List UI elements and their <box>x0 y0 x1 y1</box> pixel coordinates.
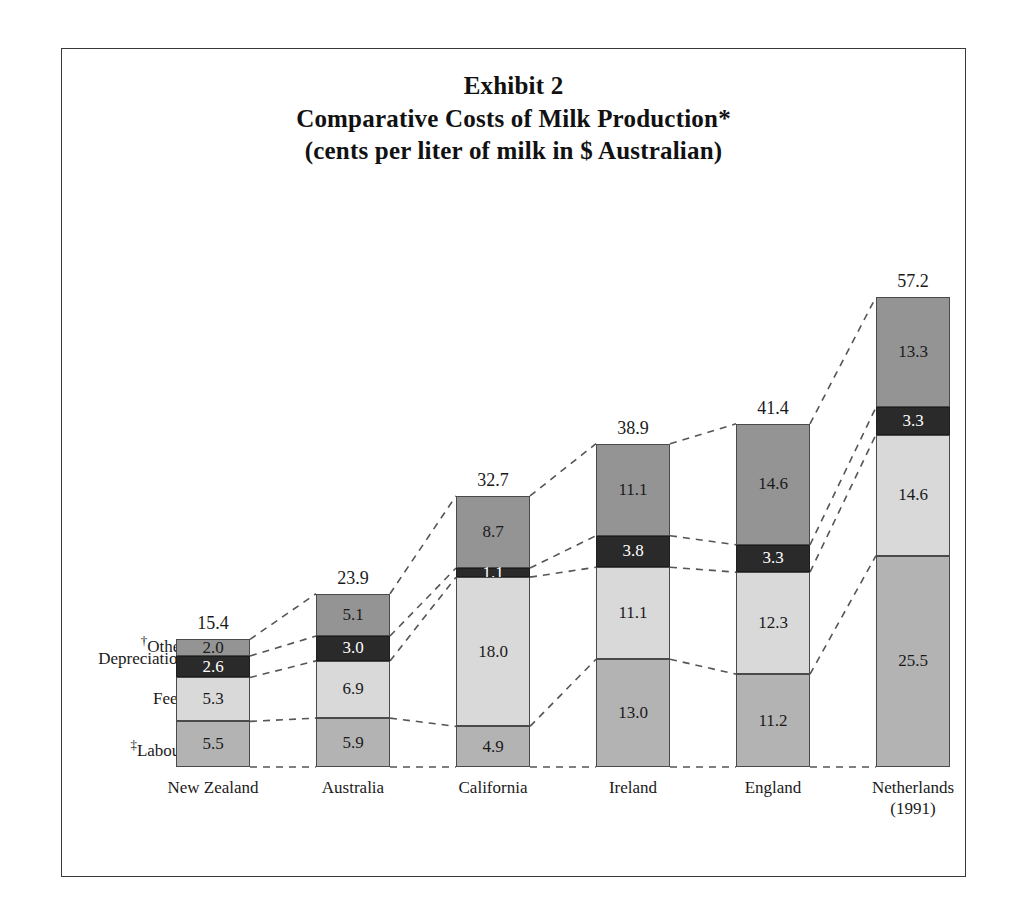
bar-total-label: 32.7 <box>456 470 530 491</box>
x-axis-label-netherlands: Netherlands(1991) <box>848 777 978 820</box>
x-axis-sublabel-text: (1991) <box>848 798 978 819</box>
chart-plot-area: †OtherDepreciationFeed‡Labour2.02.65.35.… <box>0 0 1016 918</box>
bar-segment-value: 11.1 <box>618 603 647 623</box>
bar-segment-value: 5.9 <box>342 733 363 753</box>
bar-segment-depreciation[interactable]: 2.6 <box>176 656 250 678</box>
bar-segment-value: 25.5 <box>898 651 928 671</box>
bar-segment-value: 3.3 <box>902 411 923 431</box>
x-axis-label-ireland: Ireland <box>568 777 698 798</box>
x-axis-label-text: Netherlands <box>848 777 978 798</box>
bar-segment-value: 5.5 <box>202 734 223 754</box>
bar-segment-labour[interactable]: 5.9 <box>316 718 390 767</box>
bar-segment-feed[interactable]: 14.6 <box>876 435 950 556</box>
bar-total-label: 38.9 <box>596 418 670 439</box>
bar-segment-value: 13.0 <box>618 703 648 723</box>
x-axis-label-text: Ireland <box>568 777 698 798</box>
x-axis-label-text: England <box>708 777 838 798</box>
x-axis-label-text: Australia <box>288 777 418 798</box>
x-axis-label-california: California <box>428 777 558 798</box>
bar-segment-value: 14.6 <box>898 485 928 505</box>
bar-total-label: 23.9 <box>316 568 390 589</box>
bar-segment-value: 6.9 <box>342 679 363 699</box>
bar-segment-value: 11.2 <box>758 711 787 731</box>
bar-segment-other[interactable]: 2.0 <box>176 639 250 656</box>
bar-segment-feed[interactable]: 6.9 <box>316 661 390 718</box>
bar-segment-feed[interactable]: 18.0 <box>456 577 530 726</box>
bar-segment-value: 12.3 <box>758 613 788 633</box>
bar-segment-other[interactable]: 14.6 <box>736 424 810 545</box>
bar-segment-value: 5.3 <box>202 689 223 709</box>
x-axis-label-new-zealand: New Zealand <box>148 777 278 798</box>
bar-segment-feed[interactable]: 12.3 <box>736 572 810 674</box>
x-axis-label-australia: Australia <box>288 777 418 798</box>
bar-segment-other[interactable]: 11.1 <box>596 444 670 536</box>
bar-ireland[interactable]: 11.13.811.113.0 <box>596 444 670 767</box>
bar-segment-labour[interactable]: 11.2 <box>736 674 810 767</box>
bar-total-label: 57.2 <box>876 271 950 292</box>
legend-row-label-depreciation: Depreciation <box>98 649 186 669</box>
bar-segment-other[interactable]: 13.3 <box>876 297 950 407</box>
bar-segment-value: 18.0 <box>478 642 508 662</box>
bar-segment-labour[interactable]: 25.5 <box>876 556 950 767</box>
bar-segment-feed[interactable]: 11.1 <box>596 567 670 659</box>
bar-segment-value: 4.9 <box>482 737 503 757</box>
bar-california[interactable]: 8.71.118.04.9 <box>456 496 530 767</box>
bar-segment-labour[interactable]: 4.9 <box>456 726 530 767</box>
bar-segment-depreciation[interactable]: 3.3 <box>876 407 950 434</box>
bar-segment-value: 3.0 <box>342 638 363 658</box>
bar-segment-value: 3.3 <box>762 548 783 568</box>
bar-england[interactable]: 14.63.312.311.2 <box>736 424 810 767</box>
bar-segment-depreciation[interactable]: 3.0 <box>316 636 390 661</box>
bar-segment-feed[interactable]: 5.3 <box>176 677 250 721</box>
bar-segment-other[interactable]: 5.1 <box>316 594 390 636</box>
bar-segment-value: 2.0 <box>202 638 223 658</box>
bar-australia[interactable]: 5.13.06.95.9 <box>316 594 390 767</box>
bar-segment-other[interactable]: 8.7 <box>456 496 530 568</box>
bar-new-zealand[interactable]: 2.02.65.35.5 <box>176 639 250 767</box>
legend-row-label-text: Depreciation <box>98 649 186 668</box>
bar-segment-value: 14.6 <box>758 474 788 494</box>
bar-segment-value: 5.1 <box>342 605 363 625</box>
bar-segment-value: 2.6 <box>202 657 223 677</box>
bar-segment-labour[interactable]: 5.5 <box>176 721 250 767</box>
bar-segment-value: 13.3 <box>898 342 928 362</box>
bar-segment-value: 3.8 <box>622 541 643 561</box>
x-axis-label-text: New Zealand <box>148 777 278 798</box>
bar-total-label: 41.4 <box>736 398 810 419</box>
bar-netherlands[interactable]: 13.33.314.625.5 <box>876 297 950 767</box>
bar-segment-depreciation[interactable]: 3.8 <box>596 536 670 568</box>
bar-segment-depreciation[interactable]: 1.1 <box>456 568 530 577</box>
bar-segment-value: 11.1 <box>618 480 647 500</box>
bar-segment-labour[interactable]: 13.0 <box>596 659 670 767</box>
bar-segment-depreciation[interactable]: 3.3 <box>736 545 810 572</box>
bar-total-label: 15.4 <box>176 613 250 634</box>
x-axis-label-england: England <box>708 777 838 798</box>
x-axis-label-text: California <box>428 777 558 798</box>
bar-segment-value: 8.7 <box>482 522 503 542</box>
